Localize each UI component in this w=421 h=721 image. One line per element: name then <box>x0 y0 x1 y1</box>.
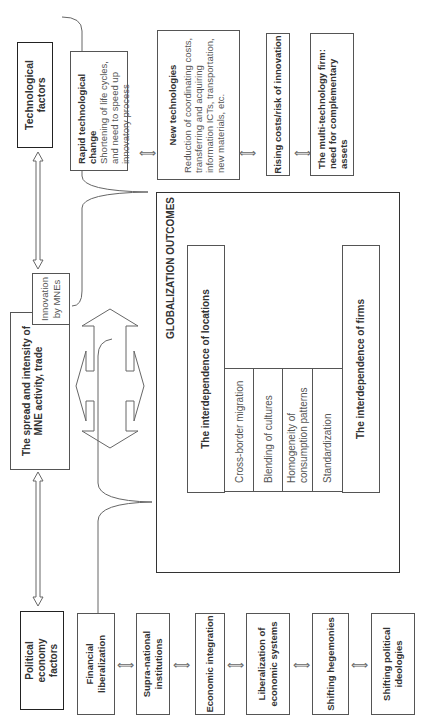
outcome-homogeneity-consumption: Homogeneity of consumption patterns <box>282 368 313 492</box>
four-way-arrow <box>76 309 144 448</box>
tech-item-rapid-change: Rapid technological change Shortening of… <box>70 51 128 171</box>
interdependence-of-locations: The interdependence of locations <box>187 245 225 493</box>
political-economy-factors-box: Political economy factors <box>20 611 64 710</box>
political-item-supra-national: Supra-national institutions <box>136 613 170 715</box>
tech-item-rising-costs: Rising costs/risk of innovation <box>266 33 290 176</box>
bidirectional-arrow-icon: ⟺ <box>293 658 310 672</box>
bidirectional-arrow-icon: ⟺ <box>294 146 311 160</box>
bidirectional-arrow-icon: ⟺ <box>239 146 256 160</box>
political-item-economic-integration: Economic integration <box>195 613 225 715</box>
technological-factors-box: Technological factors <box>17 42 53 148</box>
bidirectional-arrow-icon: ⟺ <box>139 146 156 160</box>
innovation-by-mnes-box: Innovation by MNEs <box>32 273 70 325</box>
political-item-liberalization-economic-systems: Liberalization of economic systems <box>246 613 290 715</box>
political-item-financial-liberalization: Financial liberalization <box>77 613 115 715</box>
diagram-canvas: Technological factors Political economy … <box>0 0 421 721</box>
tech-item-multi-technology-firm: The multi-technology firm: need for comp… <box>310 33 354 176</box>
mne-activity-box: The spread and intensity of MNE activity… <box>10 312 70 470</box>
interdependence-of-firms: The interdependence of firms <box>342 245 380 493</box>
bidirectional-arrow-icon: ⟺ <box>117 658 134 672</box>
bidirectional-arrow-icon: ⟺ <box>351 658 368 672</box>
bidirectional-arrow-icon: ⟺ <box>227 658 244 672</box>
outcome-cross-border-migration: Cross-border migration <box>224 368 254 492</box>
political-item-shifting-hegemonies: Shifting hegemonies <box>312 613 349 715</box>
outcome-blending-of-cultures: Blending of cultures <box>253 368 283 492</box>
tech-item-new-technologies: New technologies Reduction of coordinati… <box>157 30 240 180</box>
outcome-standardization: Standardization <box>312 368 343 492</box>
political-item-shifting-ideologies: Shifting political ideologies <box>371 613 415 715</box>
double-arrow-left <box>33 472 43 606</box>
outcomes-title: GLOBALIZATION OUTCOMES <box>165 197 177 339</box>
double-arrow-right <box>33 152 43 269</box>
globalization-outcomes-box: GLOBALIZATION OUTCOMES The interdependen… <box>156 192 400 573</box>
bidirectional-arrow-icon: ⟺ <box>173 658 190 672</box>
